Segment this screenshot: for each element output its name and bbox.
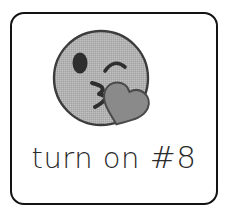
- emoji-svg: [51, 27, 161, 137]
- caption-hash-number: #8: [150, 139, 197, 175]
- image-canvas: turn on #8: [0, 0, 229, 223]
- caption-text: turn on #8: [12, 142, 216, 173]
- face-blowing-a-kiss-icon: [51, 27, 161, 137]
- emoji-card[interactable]: turn on #8: [10, 12, 218, 205]
- emoji-left-eye: [73, 53, 88, 74]
- caption-prefix: turn on: [32, 141, 150, 175]
